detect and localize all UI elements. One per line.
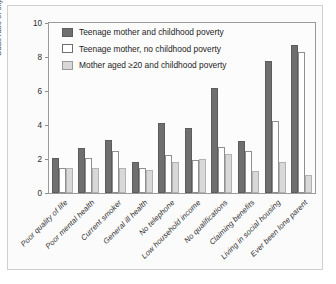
legend-item-0[interactable]: Teenage mother and childhood poverty bbox=[62, 27, 227, 37]
bar[interactable] bbox=[199, 159, 206, 193]
bar[interactable] bbox=[305, 175, 312, 193]
bar[interactable] bbox=[78, 148, 85, 193]
bar[interactable] bbox=[92, 168, 99, 194]
bar[interactable] bbox=[66, 168, 73, 193]
y-tick-label-10: 10 bbox=[8, 19, 42, 28]
bar[interactable] bbox=[85, 158, 92, 193]
bar[interactable] bbox=[105, 140, 112, 193]
legend-swatch-teenage-mother-no-poverty bbox=[62, 44, 73, 53]
legend-label-2: Mother aged ≥20 and childhood poverty bbox=[79, 60, 227, 70]
legend-label-1: Teenage mother, no childhood poverty bbox=[79, 44, 221, 54]
bar[interactable] bbox=[225, 154, 232, 193]
x-axis-labels: Poor quality of lifePoor mental healthCu… bbox=[48, 196, 316, 282]
y-tick-label-0: 0 bbox=[8, 189, 42, 198]
bar[interactable] bbox=[146, 170, 153, 193]
y-axis: Odds ratio of experiencing 0246810 bbox=[0, 22, 48, 194]
bar[interactable] bbox=[112, 151, 119, 193]
bar[interactable] bbox=[291, 45, 298, 193]
bar[interactable] bbox=[279, 162, 286, 193]
legend-label-0: Teenage mother and childhood poverty bbox=[79, 27, 224, 37]
bar[interactable] bbox=[272, 121, 279, 193]
bar[interactable] bbox=[245, 151, 252, 193]
bar[interactable] bbox=[139, 168, 146, 194]
y-tick-label-2: 2 bbox=[8, 155, 42, 164]
legend-swatch-teenage-mother-poverty bbox=[62, 28, 73, 37]
bar[interactable] bbox=[172, 162, 179, 193]
bar[interactable] bbox=[218, 147, 225, 193]
y-tick-label-6: 6 bbox=[8, 87, 42, 96]
bar-group bbox=[265, 23, 286, 193]
chart-legend: Teenage mother and childhood poverty Tee… bbox=[62, 27, 227, 70]
legend-item-2[interactable]: Mother aged ≥20 and childhood poverty bbox=[62, 60, 227, 70]
bar[interactable] bbox=[59, 168, 66, 194]
bar-group bbox=[291, 23, 312, 193]
bar[interactable] bbox=[298, 52, 305, 193]
bar[interactable] bbox=[238, 141, 245, 193]
bar[interactable] bbox=[165, 155, 172, 193]
bar[interactable] bbox=[211, 88, 218, 193]
bar[interactable] bbox=[52, 158, 59, 193]
y-tick-label-4: 4 bbox=[8, 121, 42, 130]
figure-container: Odds ratio of experiencing 0246810 Poor … bbox=[0, 0, 336, 284]
y-axis-label: Odds ratio of experiencing bbox=[0, 0, 3, 56]
bar[interactable] bbox=[192, 160, 199, 193]
y-tick-label-8: 8 bbox=[8, 53, 42, 62]
bar[interactable] bbox=[252, 171, 259, 193]
bar-group bbox=[238, 23, 259, 193]
legend-swatch-mother-20plus-poverty bbox=[62, 61, 73, 70]
bar[interactable] bbox=[158, 123, 165, 193]
bar[interactable] bbox=[132, 162, 139, 193]
bar[interactable] bbox=[119, 168, 126, 193]
bar[interactable] bbox=[265, 61, 272, 193]
legend-item-1[interactable]: Teenage mother, no childhood poverty bbox=[62, 44, 227, 54]
bar[interactable] bbox=[185, 128, 192, 193]
